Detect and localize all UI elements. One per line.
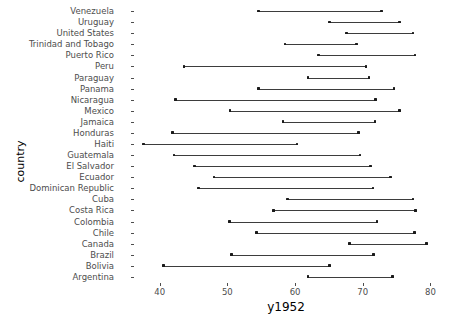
- y-axis-tick-label: Honduras: [73, 128, 114, 139]
- range-end-point: [355, 43, 358, 46]
- y-axis-tick-mark: [131, 144, 134, 145]
- y-axis-tick-label: Puerto Rico: [66, 50, 114, 61]
- y-axis-tick-label: Venezuela: [70, 6, 114, 17]
- range-segment: [259, 89, 394, 90]
- y-axis-tick-mark: [131, 44, 134, 45]
- y-axis-tick-label: Mexico: [84, 106, 114, 117]
- range-end-point: [376, 220, 379, 223]
- x-axis-tick-mark: [160, 283, 161, 286]
- x-axis-tick-label: 60: [290, 287, 301, 297]
- x-axis-tick-label: 40: [154, 287, 165, 297]
- range-segment: [273, 210, 415, 211]
- y-axis-tick-label: Brazil: [90, 250, 114, 261]
- range-segment: [164, 266, 330, 267]
- x-axis-tick-label: 80: [425, 287, 436, 297]
- range-segment: [229, 222, 377, 223]
- range-row: [136, 28, 444, 39]
- y-axis-tick-mark: [131, 111, 134, 112]
- y-axis-tick-label: Nicaragua: [71, 95, 114, 106]
- y-axis-tick-mark: [131, 210, 134, 211]
- y-axis-tick-mark: [131, 122, 134, 123]
- range-start-point: [328, 21, 331, 24]
- y-axis-tick-mark: [131, 188, 134, 189]
- range-end-point: [357, 131, 360, 134]
- range-start-point: [228, 220, 231, 223]
- y-axis-tick-label: Haiti: [94, 139, 114, 150]
- y-axis-tick-mark: [131, 133, 134, 134]
- range-row: [136, 183, 444, 194]
- y-axis-tick-mark: [131, 11, 134, 12]
- y-axis-tick-mark: [131, 33, 134, 34]
- range-end-point: [328, 264, 331, 267]
- range-start-point: [183, 65, 186, 68]
- range-start-point: [193, 165, 196, 168]
- plot-panel: [136, 6, 444, 283]
- range-start-point: [307, 76, 310, 79]
- x-axis-tick-label: 70: [357, 287, 368, 297]
- y-axis-tick-label: Jamaica: [81, 117, 114, 128]
- y-axis-tick-label: Costa Rica: [69, 205, 114, 216]
- chart-container: country VenezuelaUruguayUnited StatesTri…: [0, 0, 449, 323]
- y-axis-tick-label: Colombia: [74, 217, 114, 228]
- y-axis-tick-mark: [131, 255, 134, 256]
- range-end-point: [389, 176, 392, 179]
- x-axis-tick-mark: [295, 283, 296, 286]
- y-axis-tick-label: Canada: [82, 239, 114, 250]
- range-row: [136, 161, 444, 172]
- range-start-point: [174, 98, 177, 101]
- range-end-point: [369, 165, 372, 168]
- x-axis-tick-mark: [430, 283, 431, 286]
- range-row: [136, 172, 444, 183]
- range-segment: [285, 44, 357, 45]
- range-start-point: [345, 32, 348, 35]
- range-start-point: [173, 154, 176, 157]
- range-segment: [174, 155, 360, 156]
- range-start-point: [282, 120, 285, 123]
- range-start-point: [307, 275, 310, 278]
- range-start-point: [257, 10, 260, 13]
- range-row: [136, 139, 444, 150]
- range-row: [136, 128, 444, 139]
- y-axis-tick-mark: [131, 266, 134, 267]
- y-axis-tick-mark: [131, 89, 134, 90]
- y-axis-tick-mark: [131, 244, 134, 245]
- range-segment: [143, 144, 297, 145]
- range-segment: [198, 188, 373, 189]
- range-segment: [308, 277, 393, 278]
- range-start-point: [162, 264, 165, 267]
- range-end-point: [380, 10, 383, 13]
- range-row: [136, 17, 444, 28]
- y-axis-tick-label: Guatemala: [67, 150, 114, 161]
- y-axis-tick-mark: [131, 155, 134, 156]
- range-row: [136, 194, 444, 205]
- range-end-point: [425, 242, 428, 245]
- range-segment: [347, 33, 413, 34]
- range-start-point: [229, 109, 232, 112]
- range-end-point: [413, 231, 416, 234]
- range-start-point: [171, 131, 174, 134]
- y-axis-tick-mark: [131, 277, 134, 278]
- y-axis-tick-mark: [131, 78, 134, 79]
- y-axis-tick-mark: [131, 55, 134, 56]
- range-end-point: [359, 154, 362, 157]
- range-end-point: [374, 98, 377, 101]
- range-row: [136, 150, 444, 161]
- range-segment: [194, 166, 370, 167]
- x-axis-tick-mark: [227, 283, 228, 286]
- y-axis-tick-mark: [131, 199, 134, 200]
- y-axis-tick-label: Uruguay: [78, 17, 114, 28]
- range-row: [136, 61, 444, 72]
- y-axis-tick-labels: VenezuelaUruguayUnited StatesTrinidad an…: [0, 6, 128, 283]
- y-axis-tick-label: Argentina: [73, 272, 114, 283]
- range-segment: [256, 233, 414, 234]
- range-row: [136, 228, 444, 239]
- range-segment: [230, 111, 399, 112]
- range-segment: [288, 199, 413, 200]
- range-segment: [349, 244, 426, 245]
- range-row: [136, 50, 444, 61]
- range-end-point: [391, 275, 394, 278]
- range-end-point: [398, 109, 401, 112]
- range-segment: [308, 78, 369, 79]
- range-segment: [330, 22, 400, 23]
- range-end-point: [372, 253, 375, 256]
